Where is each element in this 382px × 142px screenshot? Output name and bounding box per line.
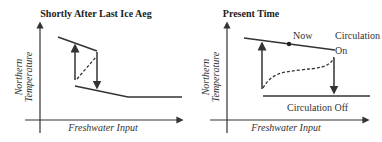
circulation-on-label-1: Circulation	[335, 30, 380, 41]
y-axis-label-2: Temperature	[210, 51, 221, 102]
unstable-branch	[77, 57, 96, 79]
now-marker	[287, 42, 291, 46]
panel-title: Shortly After Last Ice Aeg	[40, 8, 151, 19]
upper-branch	[58, 37, 97, 51]
now-label: Now	[293, 30, 313, 41]
hysteresis-diagram: Shortly After Last Ice Aeg Freshwater In…	[0, 0, 382, 142]
panel-title: Present Time	[223, 8, 280, 19]
unstable-branch	[263, 57, 334, 88]
panel-present: Present Time Freshwater Input Northern T…	[200, 8, 380, 133]
x-axis-label: Freshwater Input	[250, 122, 321, 133]
circulation-on-label-2: On	[335, 45, 347, 56]
lower-branch	[75, 86, 182, 97]
y-axis-label-2: Temperature	[23, 51, 34, 102]
x-axis-label: Freshwater Input	[67, 122, 138, 133]
circulation-off-label: Circulation Off	[287, 102, 349, 113]
panel-ice-age: Shortly After Last Ice Aeg Freshwater In…	[13, 8, 182, 133]
